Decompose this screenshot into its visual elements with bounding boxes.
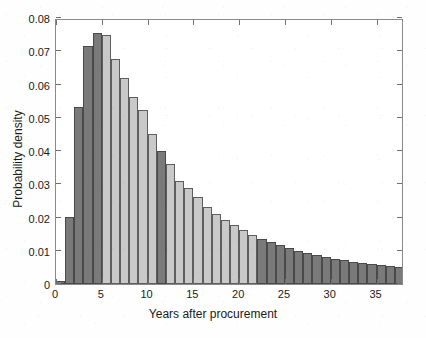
histogram-bar: [239, 230, 248, 284]
y-axis-tick: [397, 150, 402, 151]
histogram-bar: [303, 253, 312, 284]
histogram-bar: [294, 251, 303, 284]
y-axis-tick: [56, 183, 61, 184]
histogram-bar: [267, 242, 276, 284]
histogram-bar: [175, 181, 184, 284]
histogram-bar: [83, 46, 92, 284]
histogram-bar: [230, 225, 239, 284]
histogram-bar: [340, 260, 349, 284]
x-axis-tick: [102, 20, 103, 25]
histogram-bar: [248, 235, 257, 284]
histogram-bar: [377, 265, 386, 284]
x-axis-tick: [193, 20, 194, 25]
x-axis-tick: [102, 279, 103, 284]
y-axis-tick: [56, 84, 61, 85]
histogram-bars: [56, 20, 402, 284]
y-axis-tick: [56, 150, 61, 151]
histogram-bar: [276, 245, 285, 284]
histogram-bar: [93, 33, 102, 284]
histogram-bar: [166, 164, 175, 284]
y-axis-tick: [56, 50, 61, 51]
histogram-bar: [138, 110, 147, 284]
y-axis-tick: [56, 217, 61, 218]
histogram-bar: [322, 257, 331, 284]
histogram-bar: [221, 220, 230, 284]
histogram-bar: [203, 207, 212, 284]
histogram-bar: [120, 78, 129, 284]
x-axis-tick: [193, 279, 194, 284]
x-axis-tick: [148, 279, 149, 284]
x-axis-tick-label: 0: [52, 288, 58, 300]
x-axis-tick: [148, 20, 149, 25]
y-axis-tick: [56, 250, 61, 251]
y-axis-tick: [397, 50, 402, 51]
histogram-bar: [193, 197, 202, 284]
x-axis-tick: [285, 279, 286, 284]
x-axis-tick: [377, 20, 378, 25]
x-axis-tick: [331, 279, 332, 284]
histogram-bar: [312, 255, 321, 284]
x-axis-tick: [56, 20, 57, 25]
x-axis-tick: [285, 20, 286, 25]
x-axis-tick-label: 5: [98, 288, 104, 300]
histogram-bar: [111, 59, 120, 284]
histogram-bar: [285, 248, 294, 284]
y-axis-tick-label: 0.01: [0, 246, 50, 258]
plot-area: [55, 19, 403, 285]
x-axis-tick: [239, 279, 240, 284]
histogram-bar: [367, 264, 376, 284]
y-axis-tick-label: 0: [0, 279, 50, 291]
y-axis-tick-label: 0.02: [0, 213, 50, 225]
y-axis-tick-label: 0.04: [0, 146, 50, 158]
y-axis-tick: [56, 283, 61, 284]
x-axis-tick: [331, 20, 332, 25]
histogram-bar: [331, 259, 340, 284]
x-axis-tick-label: 10: [140, 288, 152, 300]
y-axis-tick-label: 0.03: [0, 179, 50, 191]
y-axis-tick: [56, 17, 61, 18]
y-axis-tick-label: 0.06: [0, 80, 50, 92]
y-axis-tick: [397, 84, 402, 85]
figure-canvas: 05101520253035 00.010.020.030.040.050.06…: [0, 0, 426, 338]
y-axis-tick: [397, 117, 402, 118]
x-axis-tick-label: 15: [186, 288, 198, 300]
y-axis-tick: [397, 283, 402, 284]
x-axis-tick-label: 25: [278, 288, 290, 300]
histogram-bar: [148, 134, 157, 284]
histogram-bar: [129, 97, 138, 284]
y-axis-tick-label: 0.05: [0, 113, 50, 125]
histogram-bar: [65, 217, 74, 284]
histogram-bar: [395, 267, 402, 284]
y-axis-tick-label: 0.08: [0, 13, 50, 25]
x-axis-tick: [377, 279, 378, 284]
x-axis-tick: [239, 20, 240, 25]
x-axis-tick-label: 30: [324, 288, 336, 300]
y-axis-tick: [56, 117, 61, 118]
y-axis-tick: [397, 183, 402, 184]
histogram-bar: [74, 107, 83, 284]
x-axis-title: Years after procurement: [0, 307, 426, 321]
y-axis-tick: [397, 217, 402, 218]
histogram-bar: [358, 263, 367, 284]
histogram-bar: [212, 214, 221, 284]
histogram-bar: [184, 188, 193, 284]
x-axis-tick-label: 35: [369, 288, 381, 300]
y-axis-tick-label: 0.07: [0, 46, 50, 58]
histogram-bar: [386, 266, 395, 284]
y-axis-tick: [397, 17, 402, 18]
histogram-bar: [102, 35, 111, 284]
histogram-bar: [257, 239, 266, 284]
x-axis-tick-label: 20: [232, 288, 244, 300]
histogram-bar: [349, 262, 358, 284]
histogram-bar: [157, 151, 166, 284]
y-axis-title: Probability density: [11, 59, 25, 259]
y-axis-tick: [397, 250, 402, 251]
